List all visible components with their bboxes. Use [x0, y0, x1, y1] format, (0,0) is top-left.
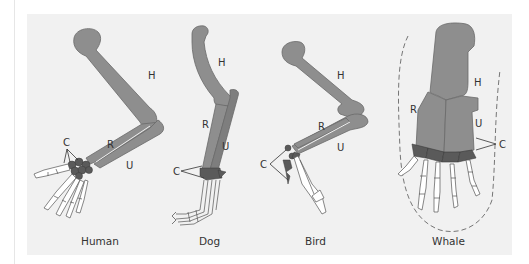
dog-label-h: H	[218, 57, 226, 68]
dog-label-c: C	[173, 166, 180, 177]
human-label-c: C	[63, 137, 70, 148]
whale-label-c: C	[499, 139, 506, 150]
whale-humerus	[430, 23, 475, 100]
whale-carpal-pointer	[476, 138, 496, 150]
whale-label-u: U	[475, 118, 482, 129]
human-limb: H R U C Human	[34, 29, 164, 247]
whale-caption: Whale	[432, 235, 465, 247]
dog-label-u: U	[222, 141, 229, 152]
bird-label-r: R	[318, 121, 325, 132]
whale-label-h: H	[474, 77, 482, 88]
human-humerus	[74, 29, 157, 128]
whale-digits	[398, 156, 480, 212]
bird-label-h: H	[337, 70, 345, 81]
bird-caption: Bird	[305, 235, 326, 247]
bird-ulna	[292, 114, 368, 154]
bird-humerus	[282, 41, 364, 118]
bird-digits	[294, 156, 326, 214]
bird-label-u: U	[337, 142, 344, 153]
forelimb-diagram: H R U C Human H R U	[0, 0, 529, 264]
human-label-h: H	[148, 70, 156, 81]
bird-limb: H R U C Bird	[260, 41, 368, 247]
dog-limb: H R U C Dog	[172, 26, 239, 247]
human-label-u: U	[126, 160, 133, 171]
whale-limb: H R U C Whale	[398, 23, 506, 247]
human-label-r: R	[107, 139, 114, 150]
dog-digits	[172, 180, 220, 225]
whale-label-r: R	[410, 104, 417, 115]
dog-humerus	[192, 26, 233, 106]
bird-label-c: C	[260, 159, 267, 170]
whale-ulna	[444, 96, 478, 154]
dog-label-r: R	[202, 119, 209, 130]
whale-radius	[416, 92, 446, 152]
human-caption: Human	[81, 235, 119, 247]
dog-caption: Dog	[199, 235, 220, 247]
